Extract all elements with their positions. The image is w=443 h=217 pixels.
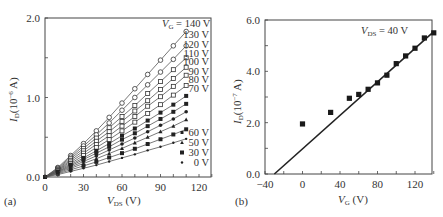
scatter-b — [274, 30, 436, 174]
data-point — [133, 147, 137, 151]
data-point — [171, 57, 176, 62]
data-point — [133, 131, 137, 135]
data-point — [431, 30, 436, 35]
data-point — [146, 119, 150, 123]
data-point — [159, 111, 163, 115]
x-tick-label: 0 — [42, 181, 48, 193]
x-axis-label-a: VDS (V) — [107, 194, 141, 208]
data-point — [403, 53, 408, 58]
y-tick-label: 2.0 — [246, 117, 260, 129]
curve-line — [45, 58, 186, 177]
data-point — [146, 130, 150, 134]
data-point — [146, 142, 150, 146]
y-tick-label: 4.0 — [246, 65, 260, 77]
data-point — [133, 136, 137, 140]
data-point — [159, 124, 163, 128]
data-point — [171, 110, 175, 114]
data-point — [120, 115, 124, 119]
data-point — [328, 110, 333, 115]
data-point — [133, 86, 138, 91]
data-point — [159, 146, 161, 148]
x-axis-label-b: VG (V) — [338, 193, 368, 207]
data-point — [69, 170, 71, 172]
data-point — [120, 101, 125, 106]
data-point — [159, 88, 163, 92]
data-point — [184, 94, 188, 98]
data-point — [107, 148, 111, 152]
data-point — [133, 103, 137, 107]
y-tick-label: 2.0 — [26, 12, 40, 24]
data-point — [120, 142, 124, 146]
legend-label: 0 V — [194, 157, 210, 168]
data-point — [185, 138, 187, 140]
data-point — [145, 72, 150, 77]
data-point — [171, 93, 175, 97]
legend-marker — [181, 131, 184, 134]
y-tick-label: 1.0 — [26, 92, 40, 104]
data-point — [394, 61, 399, 66]
curves-a — [43, 29, 188, 179]
data-point — [120, 134, 124, 138]
panel-label-a: (a) — [4, 195, 17, 208]
data-point — [107, 134, 111, 138]
data-point — [171, 103, 175, 107]
data-point — [172, 142, 174, 144]
data-point — [133, 127, 137, 131]
vds-annotation: VDS = 40 V — [361, 25, 408, 38]
y-tick-label: 0.0 — [26, 171, 40, 183]
data-point — [146, 99, 150, 103]
panel-b: −4004080120 0.02.04.06.0 VDS = 40 V VG (… — [231, 14, 436, 208]
data-point — [120, 124, 124, 128]
data-point — [108, 160, 110, 162]
legend-a: 60 V50 V30 V0 V — [180, 127, 209, 168]
data-point — [107, 115, 112, 120]
figure: 0306090120 0.01.02.0 VDS (V) ID(10−6 A) … — [0, 0, 443, 217]
data-point — [133, 95, 138, 100]
data-point — [146, 124, 150, 128]
data-point — [159, 117, 163, 121]
data-point — [171, 84, 175, 88]
data-point — [94, 160, 98, 164]
curve-label: 70 V — [188, 83, 209, 94]
data-point — [159, 80, 163, 84]
data-point — [171, 68, 175, 72]
legend-marker — [180, 141, 184, 145]
x-tick-label: 120 — [191, 181, 208, 193]
data-point — [146, 104, 150, 108]
data-point — [146, 92, 150, 96]
data-point — [159, 103, 163, 107]
data-point — [107, 130, 111, 134]
data-point — [356, 92, 361, 97]
data-point — [107, 126, 111, 130]
data-point — [133, 120, 137, 124]
y-axis-label-a: ID(10−6 A) — [7, 77, 21, 123]
data-point — [347, 96, 352, 101]
data-point — [159, 137, 163, 141]
data-point — [121, 157, 123, 159]
data-point — [82, 167, 84, 169]
data-point — [133, 109, 137, 113]
data-point — [171, 132, 175, 136]
data-point — [107, 121, 112, 126]
data-point — [107, 138, 111, 142]
x-tick-label: 90 — [155, 181, 167, 193]
data-point — [133, 115, 137, 119]
panel-label-b: (b) — [235, 195, 248, 208]
curve-line — [45, 46, 186, 177]
data-point — [184, 102, 188, 106]
data-point — [366, 87, 371, 92]
y-axis-label-b: ID(10−7 A) — [231, 79, 245, 125]
x-tick-label: 30 — [78, 181, 90, 193]
data-point — [171, 76, 175, 80]
x-tick-label: 0 — [300, 178, 306, 190]
y-tick-label: 6.0 — [246, 14, 260, 26]
curve-line — [45, 120, 186, 177]
data-point — [134, 153, 136, 155]
x-tick-label: 80 — [372, 178, 384, 190]
x-tick-label: 120 — [407, 178, 424, 190]
x-tick-label: 60 — [117, 181, 129, 193]
data-point — [300, 121, 305, 126]
x-tick-label: 40 — [335, 178, 347, 190]
data-point — [184, 118, 188, 122]
data-point — [159, 95, 163, 99]
